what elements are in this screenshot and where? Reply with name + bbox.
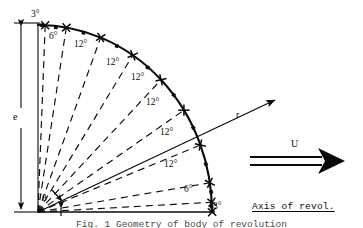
angle-label-seg1: 3° xyxy=(213,202,222,212)
angle-label-seg9: 6° xyxy=(49,32,58,42)
angle-label-seg3: 12° xyxy=(164,160,177,170)
angle-label-seg2: 6° xyxy=(184,185,193,195)
radius-label-r: r xyxy=(236,110,239,120)
angle-label-seg8: 12° xyxy=(74,40,87,50)
axis-of-revolution-label: Axis of revol. xyxy=(252,202,335,212)
offset-label-e: e xyxy=(13,112,17,122)
angle-label-seg7: 12° xyxy=(106,58,119,68)
figure-caption: Fig. 1 Geometry of body of revolution xyxy=(0,219,363,228)
angle-label-seg5: 12° xyxy=(146,98,159,108)
angle-label-seg10: 3° xyxy=(31,10,40,20)
radius-vector xyxy=(38,100,275,212)
freestream-arrow xyxy=(250,148,345,174)
figure-body-of-revolution: 3° 6° 12° 12° 12° 12° 12° 12° 6° 3° e θ … xyxy=(0,0,363,228)
angle-label-seg6: 12° xyxy=(131,73,144,83)
freestream-label-u: U xyxy=(291,139,298,149)
theta-label: θ xyxy=(42,193,47,203)
angle-label-seg4: 12° xyxy=(160,128,173,138)
